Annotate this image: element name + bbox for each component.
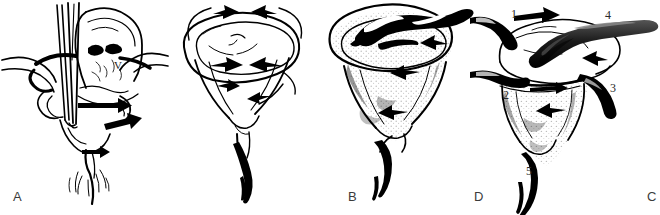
panel-b-illustration xyxy=(165,0,325,215)
panel-d-marker-3: 3 xyxy=(610,82,616,94)
panel-a-illustration xyxy=(0,0,170,215)
panel-a-arrows xyxy=(78,98,142,158)
panel-a: V xyxy=(0,0,170,215)
panel-d xyxy=(470,0,660,215)
figure-plate: V xyxy=(0,0,660,215)
panel-c-cord xyxy=(372,140,392,201)
panel-d-structure-5 xyxy=(516,152,538,215)
panel-d-marker-2: 2 xyxy=(503,89,509,101)
panel-d-marker-1: 1 xyxy=(511,8,517,20)
panel-c-illustration xyxy=(320,0,480,215)
panel-b-cord xyxy=(233,142,253,204)
panel-a-caption: A xyxy=(13,190,22,203)
panel-b-arrows xyxy=(209,5,283,104)
panel-d-marker-5: 5 xyxy=(526,165,532,177)
panel-c: C xyxy=(320,0,480,215)
panel-d-structure-2 xyxy=(470,70,530,88)
panel-d-illustration xyxy=(470,0,660,215)
panel-d-caption: D xyxy=(474,190,484,203)
panel-d-structure-1 xyxy=(470,17,518,51)
panel-b: B xyxy=(165,0,325,215)
panel-a-marker-vagina: V xyxy=(114,60,122,71)
panel-d-marker-4: 4 xyxy=(605,9,611,21)
